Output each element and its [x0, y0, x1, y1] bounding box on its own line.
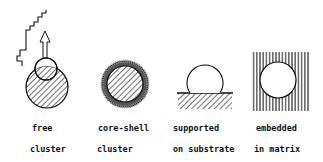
- substrate: [178, 93, 232, 109]
- label-embedded-line2: in matrix: [254, 145, 300, 154]
- label-embedded-line1: embedded: [256, 124, 297, 133]
- cluster-types-diagram: [0, 0, 323, 162]
- label-supported-line1: supported: [173, 124, 219, 133]
- embedded-figure: [252, 52, 310, 111]
- label-supported-line2: on substrate: [173, 145, 234, 154]
- embedded-cluster-circle: [260, 62, 296, 98]
- label-free-line1: free: [32, 124, 52, 133]
- core-shell-figure: [102, 61, 148, 107]
- label-core-shell-line1: core-shell: [98, 124, 149, 133]
- supported-cluster-circle: [187, 65, 223, 93]
- label-core-shell-line2: cluster: [97, 145, 133, 154]
- supported-figure: [177, 65, 233, 109]
- arrow-icon: [40, 31, 50, 58]
- free-cluster-figure: [17, 10, 68, 108]
- label-free-line2: cluster: [30, 145, 66, 154]
